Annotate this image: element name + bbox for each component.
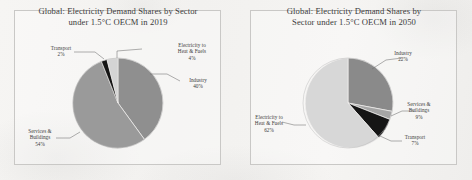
pie-label-transport-pct: 7%: [397, 140, 433, 146]
pie-label-transport-name: Transport: [51, 45, 71, 51]
pie-label-services-buildings: Services & Buildings 9%: [399, 101, 439, 120]
pie-label-electricity-pct: 62%: [248, 127, 290, 133]
pie-label-services-line1: Services &: [28, 128, 51, 134]
pie-label-transport: Transport 2%: [43, 45, 79, 58]
pie-svg-2019: [0, 0, 236, 180]
pie-label-electricity-pct: 4%: [168, 55, 216, 61]
pie-slices-2050: [303, 58, 393, 148]
pie-label-transport-name: Transport: [405, 134, 425, 140]
pie-chart-panel-2019: Global: Electricity Demand Shares by Sec…: [0, 0, 236, 180]
pie-label-services-pct: 9%: [399, 114, 439, 120]
pie-label-electricity-line1: Electricity to: [255, 114, 283, 120]
leader-line-services-buildings: [56, 132, 80, 138]
pie-label-industry: Industry 40%: [181, 77, 215, 90]
pie-label-industry-name: Industry: [189, 77, 207, 83]
pie-label-electricity-heat-fuels: Electricity to Heat & Fuels 4%: [168, 42, 216, 61]
pie-area-2050: Industry 22% Services & Buildings 9% Tra…: [236, 0, 472, 180]
pie-label-electricity-line1: Electricity to: [178, 42, 206, 48]
pie-label-industry-pct: 22%: [386, 56, 420, 62]
pie-label-services-line1: Services &: [407, 101, 430, 107]
pie-label-transport-pct: 2%: [43, 51, 79, 57]
pie-slices-2019: [72, 58, 163, 148]
pie-label-services-pct: 54%: [21, 141, 59, 147]
pie-area-2019: Transport 2% Electricity to Heat & Fuels…: [0, 0, 236, 180]
pie-label-services-buildings: Services & Buildings 54%: [21, 128, 59, 147]
pie-slice-industry: [348, 58, 393, 111]
pie-label-industry-pct: 40%: [181, 83, 215, 89]
pie-svg-2050: [236, 0, 472, 180]
pie-label-transport: Transport 7%: [397, 134, 433, 147]
pie-label-industry-name: Industry: [394, 50, 412, 56]
pie-chart-panel-2050: Global: Electricity Demand Shares by Sec…: [236, 0, 472, 180]
pie-label-industry: Industry 22%: [386, 50, 420, 63]
figure-panels: Global: Electricity Demand Shares by Sec…: [0, 0, 472, 180]
leader-line-electricity: [117, 49, 142, 58]
pie-label-electricity-heat-fuels: Electricity to Heat & Fuels 62%: [248, 114, 290, 133]
